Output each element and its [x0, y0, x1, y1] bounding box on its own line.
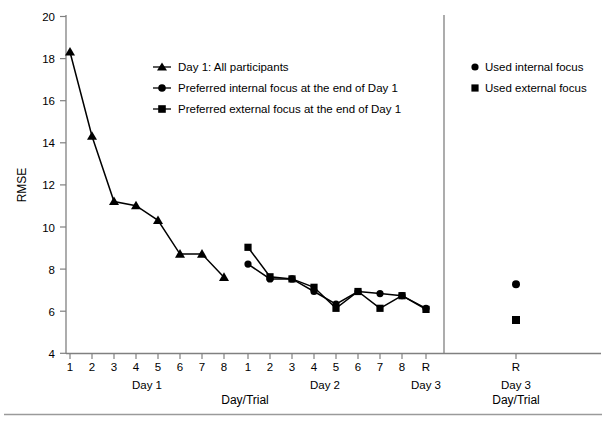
- marker-used-external-R: [512, 316, 520, 324]
- y-tick-label-8: 8: [49, 264, 55, 276]
- x-tick-label-day2-1: 1: [245, 361, 251, 373]
- y-tick-label-6: 6: [49, 306, 55, 318]
- x-tick-label-day2-5: 5: [333, 361, 339, 373]
- x-tick-label-day2-3: 3: [289, 361, 295, 373]
- figure-container: 20 18 16 14 12 10 8 6 4 RMSE: [0, 0, 606, 425]
- marker-external-R: [422, 306, 429, 313]
- legend-right-label-1: Used external focus: [485, 82, 587, 94]
- y-tick-label-20: 20: [42, 11, 55, 23]
- x-group-label-day3-left: Day 3: [411, 379, 441, 391]
- legend-left-item-1: Preferred internal focus at the end of D…: [153, 82, 398, 94]
- legend-used-internal-circle-icon: [471, 63, 478, 70]
- marker-external-8: [398, 292, 405, 299]
- marker-internal-7: [376, 290, 383, 297]
- x-tick-label-day2-4: 4: [311, 361, 318, 373]
- x-group-label-day2: Day 2: [310, 379, 340, 391]
- legend-right-label-0: Used internal focus: [485, 61, 584, 73]
- legend-left-label-1: Preferred internal focus at the end of D…: [178, 82, 398, 94]
- x-tick-label-day1-3: 3: [111, 361, 117, 373]
- x-tick-label-day3-right-R: R: [512, 361, 520, 373]
- x-tick-label-day1-5: 5: [155, 361, 161, 373]
- x-tick-label-day2-8: 8: [399, 361, 405, 373]
- marker-external-1: [244, 244, 251, 251]
- marker-external-5: [332, 305, 339, 312]
- series-used-internal-focus: [512, 280, 520, 288]
- marker-external-3: [288, 275, 295, 282]
- legend-left-label-0: Day 1: All participants: [178, 61, 289, 73]
- x-group-label-day3-right: Day 3: [501, 379, 531, 391]
- x-tick-label-day1-1: 1: [67, 361, 73, 373]
- y-axis-title: RMSE: [15, 168, 29, 203]
- rmse-line-chart: 20 18 16 14 12 10 8 6 4 RMSE: [0, 0, 606, 425]
- marker-internal-1: [244, 261, 251, 268]
- x-tick-label-day1-8: 8: [221, 361, 227, 373]
- legend-used-external-square-icon: [471, 84, 478, 91]
- marker-external-7: [376, 305, 383, 312]
- marker-external-6: [354, 288, 361, 295]
- x-tick-label-day1-4: 4: [133, 361, 140, 373]
- x-tick-label-day1-2: 2: [89, 361, 95, 373]
- y-tick-label-14: 14: [42, 137, 55, 149]
- x-tick-label-day3-left-R: R: [422, 361, 430, 373]
- marker-external-2: [266, 273, 273, 280]
- x-tick-label-day1-6: 6: [177, 361, 183, 373]
- x-group-label-day1: Day 1: [132, 379, 162, 391]
- x-axis-title-left: Day/Trial: [221, 393, 269, 407]
- legend-right-item-0: Used internal focus: [471, 61, 583, 73]
- x-tick-label-day2-7: 7: [377, 361, 383, 373]
- x-tick-label-day2-6: 6: [355, 361, 361, 373]
- x-axis-title-right: Day/Trial: [492, 393, 540, 407]
- y-tick-label-4: 4: [49, 348, 56, 360]
- series-used-external-focus: [512, 316, 520, 324]
- x-tick-label-day2-2: 2: [267, 361, 273, 373]
- x-tick-label-day1-7: 7: [199, 361, 205, 373]
- legend-left-label-2: Preferred external focus at the end of D…: [178, 103, 401, 115]
- marker-external-4: [310, 284, 317, 291]
- marker-used-internal-R: [512, 280, 520, 288]
- y-tick-label-12: 12: [42, 179, 55, 191]
- y-tick-label-18: 18: [42, 53, 55, 65]
- y-tick-label-16: 16: [42, 95, 55, 107]
- y-tick-label-10: 10: [42, 222, 55, 234]
- legend-left-item-2: Preferred external focus at the end of D…: [153, 103, 401, 115]
- legend-right-item-1: Used external focus: [471, 82, 586, 94]
